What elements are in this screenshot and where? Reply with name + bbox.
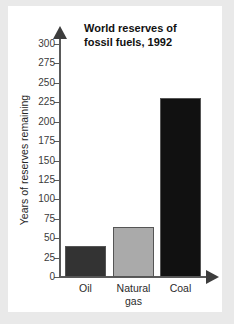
bar-coal [160,98,201,277]
y-tick-label: 75 [44,214,55,224]
chart-title: World reserves of fossil fuels, 1992 [84,22,214,49]
x-category-label: Coal [154,282,207,295]
y-axis-label: Years of reserves remaining [18,72,30,248]
y-tick-label: 0 [49,272,55,282]
y-tick-label: 175 [38,136,55,146]
y-tick-label: 125 [38,175,55,185]
x-category-label-line-1: Oil [79,282,92,294]
y-axis-line [59,36,61,278]
y-tick-label: 25 [44,253,55,263]
y-tick-label: 50 [44,233,55,243]
chart-title-line-1: World reserves of [84,22,177,34]
chart-title-line-2: fossil fuels, 1992 [84,36,172,48]
y-tick-label: 100 [38,194,55,204]
bar-oil [65,246,106,277]
y-tick-label: 150 [38,156,55,166]
x-category-label: Oil [59,282,112,295]
x-category-label-line-1: Coal [170,282,192,294]
y-tick-label: 250 [38,78,55,88]
figure-panel: World reserves of fossil fuels, 1992 Yea… [8,6,222,312]
bar-chart: World reserves of fossil fuels, 1992 Yea… [8,6,222,312]
x-category-label-line-2: gas [125,295,142,307]
x-axis-arrow-icon [206,270,219,284]
y-tick-label: 200 [38,117,55,127]
y-tick-label: 275 [38,58,55,68]
bar-natural-gas [113,227,154,277]
y-tick-label: 225 [38,97,55,107]
x-category-label: Naturalgas [107,282,160,307]
x-category-label-line-1: Natural [117,282,151,294]
y-axis-arrow-icon [53,26,67,39]
y-tick-label: 300 [38,39,55,49]
